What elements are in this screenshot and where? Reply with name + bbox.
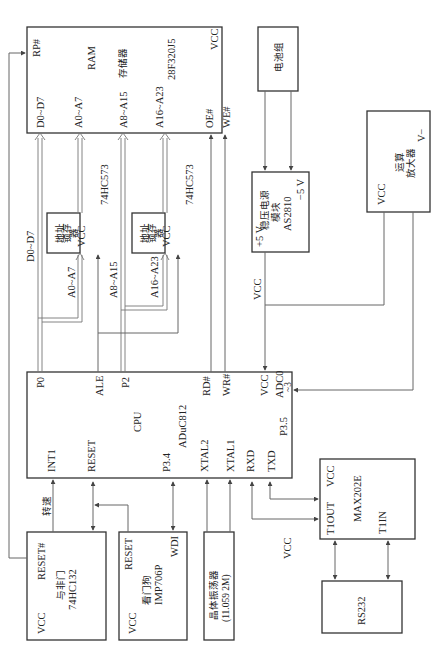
latch2-part: 74HC573	[184, 164, 195, 205]
nand-vcc: VCC	[36, 612, 47, 634]
max202-title: MAX202E	[352, 475, 363, 522]
regulator-pos: +5 V	[254, 225, 265, 247]
nand-reset: RESET#	[36, 542, 47, 580]
ram-pin-a-lo: A0~A7	[73, 97, 84, 128]
cpu-pin-ale: ALE	[94, 376, 105, 396]
max202-t1out: T1OUT	[325, 501, 336, 535]
cpu-part: ADuC812	[177, 405, 188, 448]
label-vcc-reg: VCC	[252, 278, 263, 300]
regulator-neg: −5 V	[295, 178, 306, 200]
nand-line1: 与非门	[55, 570, 66, 600]
regulator-line2: 模块	[270, 202, 281, 222]
opamp-line1: 运算	[394, 152, 405, 172]
cpu-pin-wr: WR#	[221, 373, 232, 396]
watchdog-reset: RESET	[123, 537, 134, 570]
watchdog-vcc: VCC	[127, 612, 138, 634]
label-data-bus: D0~D7	[25, 231, 36, 262]
cpu-pin-xtal2: XTAL2	[199, 440, 210, 472]
crystal-line2: (11.059 2M)	[221, 574, 232, 622]
ram-pin-d: D0~D7	[35, 97, 46, 128]
label-a8a15: A8~A15	[108, 261, 119, 298]
crystal-line1: 晶体振荡器	[208, 570, 219, 620]
cpu-pin-int1: INT1	[46, 449, 57, 472]
cpu-pin-reset: RESET	[86, 439, 97, 472]
opamp-line2: 放大器	[405, 148, 416, 178]
ram-block: RP# RAM 存储器 28F320J5 VCC D0~D7 A0~A7 A8~…	[27, 27, 232, 133]
max202-vcc: VCC	[325, 465, 336, 487]
cpu-pin-xtal1: XTAL1	[225, 440, 236, 472]
ram-pin-a-mid: A8~A15	[118, 91, 129, 128]
watchdog-part: IMP706P	[153, 565, 164, 605]
cpu-pin-txd: TXD	[266, 450, 277, 472]
battery-title: 电池组	[273, 42, 284, 72]
ram-pin-a-hi: A16~A23	[154, 86, 165, 128]
label-vcc-free: VCC	[282, 537, 293, 559]
regulator-block: 稳压电源 模块 AS2810 +5 V −5 V	[252, 172, 309, 252]
opamp-block: VCC 运算 放大器 V−	[367, 111, 430, 212]
crystal-block: 晶体振荡器 (11.059 2M)	[204, 532, 234, 640]
regulator-part: AS2810	[282, 197, 293, 231]
watchdog-line1: 看门狗	[141, 575, 152, 605]
cpu-pin-rxd: RXD	[245, 449, 256, 472]
cpu-pin-rd: RD#	[201, 375, 212, 396]
cpu-pin-adc-range: ~3	[283, 382, 293, 392]
nand-block: RESET# 与非门 74HC132 VCC	[27, 532, 106, 640]
battery-block: 电池组	[258, 27, 298, 91]
nand-part: 74HC132	[67, 569, 78, 610]
max202-t1in: T1IN	[377, 511, 388, 534]
circuit-diagram: RP# RAM 存储器 28F320J5 VCC D0~D7 A0~A7 A8~…	[0, 0, 438, 653]
watchdog-block: RESET WDI 看门狗 IMP706P VCC	[119, 532, 187, 640]
ram-pin-we: WE#	[221, 106, 232, 128]
regulator-line1: 稳压电源	[259, 190, 270, 230]
ram-pin-rp: RP#	[31, 38, 42, 57]
watchdog-wdi: WDI	[169, 536, 180, 557]
label-a16a23: A16~A23	[149, 256, 160, 298]
label-a0a7: A0~A7	[66, 267, 77, 298]
ram-pin-vcc: VCC	[209, 28, 220, 50]
cpu-pin-p34: P3.4	[161, 452, 172, 472]
cpu-pin-p2: P2	[120, 377, 131, 388]
cpu-title: CPU	[132, 411, 143, 432]
latch1-vcc: VCC	[76, 225, 87, 247]
opamp-vminus: V−	[416, 128, 427, 142]
latch1-block: 地址 锁存 器 VCC 74HC573	[47, 164, 110, 253]
latch1-part: 74HC573	[99, 164, 110, 205]
rs232-block: RS232	[322, 581, 402, 633]
ram-title: RAM	[86, 45, 97, 70]
cpu-block: P0 ALE P2 RD# WR# VCC ADC0 ~3 P3.5 CPU A…	[27, 371, 293, 478]
ram-part: 28F320J5	[166, 39, 177, 80]
opamp-vcc: VCC	[376, 183, 387, 205]
ram-subtitle: 存储器	[117, 48, 128, 78]
cpu-pin-p0: P0	[35, 377, 46, 388]
latch2-block: 地址 锁存 器 VCC 74HC573	[132, 164, 195, 253]
rs232-title: RS232	[356, 596, 367, 625]
latch2-vcc: VCC	[161, 225, 172, 247]
cpu-pin-p35: P3.5	[278, 417, 289, 436]
ram-pin-oe: OE#	[204, 108, 215, 128]
cpu-pin-vcc: VCC	[259, 374, 270, 396]
label-speed: 转速	[41, 496, 52, 516]
max202-block: VCC T1OUT MAX202E T1IN	[320, 459, 415, 539]
